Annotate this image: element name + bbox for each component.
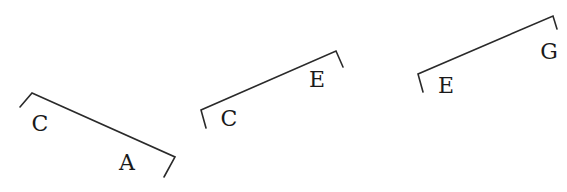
bracket-ce: C E <box>201 51 343 131</box>
label-c: C <box>32 111 49 136</box>
bracket-diagram: C A C E E G <box>0 0 567 192</box>
label-e: E <box>309 67 325 92</box>
bracket-eg: E G <box>418 16 558 98</box>
label-g: G <box>540 39 558 64</box>
label-c: C <box>221 106 238 131</box>
label-e: E <box>438 73 454 98</box>
bracket-ca: C A <box>20 93 175 177</box>
label-a: A <box>118 150 136 175</box>
